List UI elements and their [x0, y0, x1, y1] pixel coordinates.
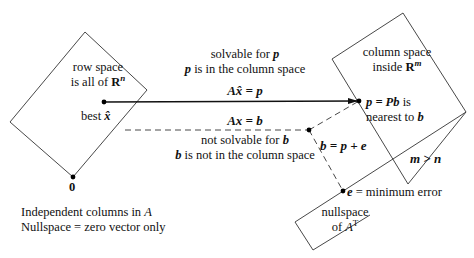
exponent-n: n — [120, 73, 125, 83]
not-solvable-line1: not solvable for b — [145, 133, 345, 148]
row-space-line2: is all of Rn — [58, 75, 138, 90]
column-space-line2: inside Rm — [352, 60, 442, 75]
solvable-suffix: is in the column space — [191, 62, 305, 76]
row-space-prefix: is all of — [71, 75, 112, 89]
origin-label: 0 — [69, 180, 75, 195]
row-space-label: row space is all of Rn — [58, 60, 138, 90]
row-space-line1: row space — [58, 60, 138, 75]
var-b: b — [283, 133, 289, 147]
projection-label: p = Pb is nearest to b — [366, 95, 424, 125]
projection-line2: nearest to b — [366, 110, 424, 125]
matrix-A: A — [144, 205, 152, 219]
solvable-caption: solvable for p p is in the column space — [160, 47, 330, 77]
not-solvable-caption: not solvable for b b is not in the colum… — [145, 133, 345, 163]
projection-line1: p = Pb is — [366, 95, 424, 110]
x-hat: x̂ — [104, 109, 110, 123]
best-prefix: best — [81, 109, 104, 123]
bottom-note: Independent columns in A Nullspace = zer… — [21, 205, 166, 235]
solvable-line1: solvable for p — [160, 47, 330, 62]
exponent-m: m — [415, 58, 422, 68]
point-b — [307, 128, 312, 133]
dimension-note: m > n — [410, 151, 441, 166]
solvable-line2: p is in the column space — [160, 62, 330, 77]
bottom-note-line1: Independent columns in A — [21, 205, 166, 220]
equation-p-equals-pb: p = Pb — [366, 95, 400, 109]
column-space-line1: column space — [352, 45, 442, 60]
column-space-prefix: inside — [372, 60, 405, 74]
error-label: e = minimum error — [347, 185, 442, 200]
matrix-A: A — [345, 220, 353, 234]
b-to-p-dashed — [309, 101, 359, 130]
set-R: R — [405, 60, 414, 74]
set-R: R — [111, 75, 120, 89]
error-rest: = minimum error — [353, 185, 442, 199]
point-p — [357, 99, 362, 104]
projection-suffix: is — [400, 95, 411, 109]
not-solvable-prefix: not solvable for — [201, 133, 283, 147]
transpose-T: T — [353, 218, 359, 228]
row-space-region — [10, 32, 147, 177]
best-x-label: best x̂ — [81, 109, 111, 124]
not-solvable-suffix: is not in the column space — [181, 148, 314, 162]
bottom-note-prefix: Independent columns in — [21, 205, 144, 219]
point-origin — [71, 175, 76, 180]
equation-ax-hat-equals-p: Ax̂ = p — [190, 83, 300, 98]
nullspace-prefix: of — [332, 220, 346, 234]
equation-b-equals-p-plus-e: b = p + e — [320, 138, 367, 153]
bottom-note-line2: Nullspace = zero vector only — [21, 220, 166, 235]
solvable-prefix: solvable for — [211, 47, 273, 61]
point-best-x — [102, 100, 107, 105]
not-solvable-line2: b is not in the column space — [145, 148, 345, 163]
equation-ax-equals-b: Ax = b — [190, 113, 300, 128]
projection-arrow — [104, 101, 357, 102]
nullspace-line1: nullspace — [310, 205, 380, 220]
nullspace-line2: of AT — [310, 220, 380, 235]
var-b: b — [417, 110, 423, 124]
nearest-prefix: nearest to — [366, 110, 417, 124]
point-e — [341, 189, 346, 194]
var-p: p — [273, 47, 279, 61]
column-space-label: column space inside Rm — [352, 45, 442, 75]
left-nullspace-label: nullspace of AT — [310, 205, 380, 235]
